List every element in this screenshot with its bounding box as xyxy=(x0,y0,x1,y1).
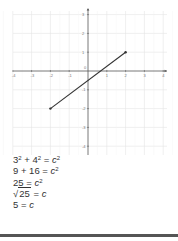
left-side: 9 + 16 xyxy=(13,165,40,176)
equation-line-1: 32 + 42 = c2 xyxy=(13,154,60,165)
x-tick-label: -4 xyxy=(12,73,16,78)
equals-sign: = xyxy=(26,177,32,188)
x-tick-label: -2 xyxy=(49,73,53,78)
left-side: 25 xyxy=(13,177,24,188)
exponent: 2 xyxy=(55,166,58,172)
left-side: 5 xyxy=(13,199,18,210)
x-tick-label: -1 xyxy=(68,73,72,78)
x-tick-label: 2 xyxy=(125,73,128,78)
exponent: 2 xyxy=(38,155,41,161)
equation-line-2: 9 + 16 = c2 xyxy=(13,165,60,176)
segment-end-point xyxy=(124,51,126,53)
radicand: 25 xyxy=(18,187,31,199)
bottom-divider xyxy=(0,234,178,237)
variable-c: c xyxy=(42,188,47,199)
exponent: 2 xyxy=(18,155,21,161)
x-axis-arrow-icon xyxy=(165,70,168,73)
square-root: √25 xyxy=(13,188,31,199)
segment-start-point xyxy=(49,107,51,109)
equals-sign: = xyxy=(21,199,27,210)
y-axis-arrow-icon xyxy=(87,8,90,11)
exponent: 2 xyxy=(39,178,42,184)
variable-c: c xyxy=(29,199,34,210)
x-tick-label: 1 xyxy=(106,73,109,78)
x-tick-label: 4 xyxy=(162,73,165,78)
equals-sign: = xyxy=(33,188,39,199)
equals-sign: = xyxy=(42,165,48,176)
exponent: 2 xyxy=(57,155,60,161)
x-tick-label: 3 xyxy=(143,73,146,78)
x-tick-label: -3 xyxy=(31,73,35,78)
coordinate-graph: -4-3-2-11234321-1-2-3-40 xyxy=(0,0,178,158)
pythagorean-work: 32 + 42 = c2 9 + 16 = c2 25 = c2 √25 = c… xyxy=(13,154,60,210)
axes xyxy=(13,8,167,155)
origin-label: 0 xyxy=(84,65,87,70)
equation-line-4: √25 = c xyxy=(13,188,60,199)
equals-sign: = xyxy=(44,154,50,165)
equation-line-5: 5 = c xyxy=(13,199,60,210)
plus-sign: + xyxy=(24,154,30,165)
